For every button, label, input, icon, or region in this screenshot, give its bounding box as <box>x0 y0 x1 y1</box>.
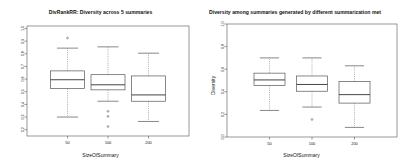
summarization-figure: Diversity among summaries generated by d… <box>201 0 402 167</box>
x-tick-label: 100 <box>105 140 112 145</box>
boxplot-group <box>339 66 370 128</box>
y-tick-label: 0.4 <box>221 89 225 94</box>
summarization-yaxis-label: Diversity <box>210 76 216 95</box>
boxplot-group <box>254 58 285 111</box>
x-tick-label: 50 <box>267 141 272 146</box>
boxplot-group <box>132 53 166 121</box>
y-tick-label: 0.0 <box>221 135 225 140</box>
box-iqr <box>339 82 370 103</box>
y-tick-label: 0.6 <box>221 67 225 72</box>
y-tick-label: 0.2 <box>221 112 225 117</box>
y-tick-label: 0.8 <box>221 44 225 49</box>
y-tick-label: 0.6 <box>21 77 25 82</box>
y-tick-label: 0.4 <box>21 102 25 107</box>
x-tick-label: 100 <box>309 141 316 146</box>
y-tick-label: 1.0 <box>21 26 25 31</box>
y-tick-label: 0.7 <box>21 64 25 69</box>
x-tick-label: 200 <box>351 141 358 146</box>
summarization-boxplot-svg: 0.00.20.40.60.81.050100200 <box>201 0 402 167</box>
outlier-point <box>107 116 109 118</box>
y-tick-label: 0.9 <box>21 39 25 44</box>
box-iqr <box>254 73 285 85</box>
outlier-point <box>67 37 69 39</box>
boxplot-group <box>51 37 85 117</box>
screenshot-root: DivRankRR: Diversity across 5 summaries … <box>0 0 402 167</box>
y-tick-label: 1.0 <box>221 22 225 27</box>
divrank-boxplot-svg: 0.20.30.40.50.60.70.80.91.050100200 <box>0 0 201 167</box>
outlier-point <box>107 126 109 128</box>
box-iqr <box>132 76 166 101</box>
x-tick-label: 200 <box>145 140 152 145</box>
y-tick-label: 0.8 <box>21 51 25 56</box>
divrank-figure: DivRankRR: Diversity across 5 summaries … <box>0 0 201 167</box>
box-iqr <box>297 76 328 91</box>
summarization-xaxis-label: SizeOfSummary <box>201 152 402 158</box>
y-tick-label: 0.5 <box>21 89 25 94</box>
outlier-point <box>107 110 109 112</box>
y-tick-label: 0.3 <box>21 115 25 120</box>
boxplot-group <box>91 47 125 128</box>
box-iqr <box>91 75 125 90</box>
divrank-xaxis-label: SizeOfSummary <box>0 152 201 158</box>
x-tick-label: 50 <box>65 140 70 145</box>
boxplot-group <box>297 58 328 120</box>
outlier-point <box>311 119 313 121</box>
y-tick-label: 0.2 <box>21 127 25 132</box>
